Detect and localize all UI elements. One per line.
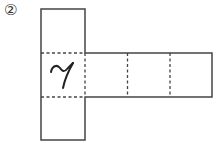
- cube-net-diagram: [0, 0, 219, 143]
- fold-lines: [41, 53, 170, 97]
- cell-glyph-a: [51, 63, 73, 88]
